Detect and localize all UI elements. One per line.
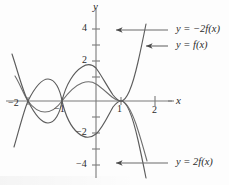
x-tick-label--1: −1 (54, 104, 65, 114)
callout-label-neg2f: y = −2f(x) (176, 24, 220, 35)
y-tick-label--2: −2 (76, 127, 87, 137)
y-tick-label--4: −4 (76, 159, 87, 169)
x-tick-label--2: −2 (8, 98, 19, 108)
x-axis-label: x (176, 95, 181, 106)
x-tick-label-1: 1 (117, 104, 122, 114)
x-tick-label-2: 2 (152, 105, 157, 115)
scan-artifact (0, 176, 229, 185)
y-tick-label-2: 2 (82, 55, 87, 65)
y-tick-label-4: 4 (82, 23, 87, 33)
figure-canvas: y x −2 −1 1 2 4 2 −2 −4 y = −2f(x) y = f… (0, 0, 229, 185)
callout-label-f: y = f(x) (176, 40, 208, 51)
y-axis-label: y (93, 1, 98, 12)
axis-lines (6, 8, 172, 178)
callout-label-2f: y = 2f(x) (176, 157, 213, 168)
